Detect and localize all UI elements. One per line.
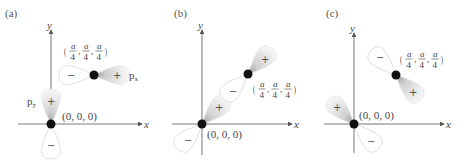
second-atom-coord-label: ( a 4 , a 4 , a 4 ) (400, 49, 443, 70)
panel-label: (c) (326, 7, 339, 20)
svg-text:a: a (97, 41, 102, 51)
svg-text:4: 4 (407, 60, 412, 70)
svg-text:a: a (407, 49, 412, 59)
px-label: px (129, 69, 139, 83)
plus-sign: + (261, 54, 269, 65)
svg-text:(: ( (64, 45, 66, 57)
origin-coord-label: (0, 0, 0) (62, 110, 97, 123)
plus-sign: + (47, 96, 55, 107)
minus-sign: − (367, 136, 375, 147)
atom-second (90, 71, 99, 80)
minus-sign: − (184, 135, 192, 146)
svg-text:4: 4 (71, 52, 76, 62)
x-axis-label: x (143, 118, 149, 130)
plus-sign: + (113, 70, 121, 81)
svg-text:4: 4 (260, 90, 265, 100)
svg-text:,: , (427, 54, 429, 64)
plus-sign: + (333, 102, 341, 113)
y-axis-label: y (46, 19, 52, 31)
minus-sign: − (67, 70, 75, 81)
svg-text:,: , (267, 84, 269, 94)
svg-text:a: a (420, 49, 425, 59)
px-orbital: + − px (59, 66, 139, 85)
svg-text:4: 4 (84, 52, 89, 62)
panel-b: (b) x y + − (0, 0, 0) + − ( a 4 , a (171, 7, 299, 155)
minus-sign: − (229, 86, 237, 97)
atom-origin (198, 120, 207, 129)
second-atom-coord-label: ( a 4 , a 4 , a 4 ) (253, 79, 296, 100)
panel-label: (a) (5, 7, 18, 20)
x-axis-label: x (445, 118, 451, 130)
svg-text:4: 4 (286, 90, 291, 100)
svg-text:(: ( (400, 53, 402, 65)
py-label: py (27, 95, 37, 109)
svg-text:4: 4 (420, 60, 425, 70)
minus-sign: − (47, 140, 55, 151)
atom-second (392, 71, 401, 80)
plus-sign: + (409, 87, 417, 98)
svg-text:,: , (91, 46, 93, 56)
atom-origin (350, 120, 359, 129)
panel-a: (a) x y + − py (0, 0, 0) + − px ( a (5, 7, 149, 159)
origin-coord-label: (0, 0, 0) (359, 109, 394, 122)
svg-text:,: , (414, 54, 416, 64)
panel-label: (b) (174, 7, 187, 20)
svg-text:4: 4 (97, 52, 102, 62)
svg-text:): ) (294, 83, 296, 95)
svg-text:4: 4 (433, 60, 438, 70)
second-atom-coord-label: ( a 4 , a 4 , a 4 ) (64, 41, 107, 62)
svg-text:,: , (280, 84, 282, 94)
origin-coord-label: (0, 0, 0) (207, 128, 242, 141)
svg-text:): ) (441, 53, 443, 65)
orbital-overlap-figure: (a) x y + − py (0, 0, 0) + − px ( a (0, 0, 469, 163)
svg-text:a: a (273, 79, 278, 89)
svg-text:a: a (71, 41, 76, 51)
svg-text:): ) (105, 45, 107, 57)
y-axis-label: y (197, 19, 203, 31)
y-axis-label: y (349, 22, 355, 34)
svg-text:,: , (78, 46, 80, 56)
x-axis-label: x (293, 118, 299, 130)
svg-text:a: a (260, 79, 265, 89)
atom-second (244, 70, 253, 79)
minus-sign: − (376, 52, 384, 63)
plus-sign: + (215, 102, 223, 113)
svg-text:a: a (286, 79, 291, 89)
svg-text:(: ( (253, 83, 255, 95)
svg-text:a: a (433, 49, 438, 59)
atom-origin (47, 120, 56, 129)
svg-text:a: a (84, 41, 89, 51)
svg-text:4: 4 (273, 90, 278, 100)
panel-c: (c) x y + − (0, 0, 0) + − ( a 4 , a (323, 7, 451, 155)
